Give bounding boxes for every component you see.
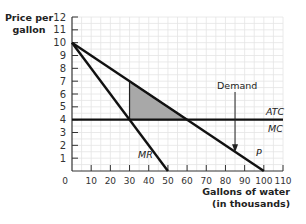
grid: [72, 17, 283, 171]
y-tick-label: 1: [60, 153, 66, 164]
y-tick-label: 7: [60, 76, 66, 87]
x-tick-label: 80: [220, 176, 232, 186]
x-tick-label: 110: [274, 176, 291, 186]
x-tick-label: 20: [105, 176, 117, 186]
y-tick-label: 11: [53, 24, 66, 35]
y-tick-label: 9: [60, 50, 66, 61]
x-tick-label: 100: [255, 176, 272, 186]
y-tick-label: 8: [60, 63, 66, 74]
x-tick-label: 60: [181, 176, 193, 186]
p-label: P: [256, 147, 262, 158]
mr-label: MR: [138, 149, 153, 160]
x-tick-label: 50: [162, 176, 174, 186]
x-tick-label: 70: [201, 176, 213, 186]
tick-labels: 1234567891011120102030405060708090100110: [53, 12, 292, 187]
y-tick-label: 12: [53, 12, 66, 23]
y-tick-label: 6: [60, 89, 66, 100]
x-tick-label: 0: [62, 176, 68, 186]
y-tick-label: 3: [60, 127, 66, 138]
y-tick-label: 4: [60, 114, 66, 125]
x-tick-label: 30: [124, 176, 136, 186]
monopoly-chart: 1234567891011120102030405060708090100110…: [0, 0, 306, 224]
x-tick-label: 10: [85, 176, 97, 186]
atc-label: ATC: [265, 106, 285, 117]
x-tick-label: 40: [143, 176, 155, 186]
mc-label: MC: [268, 123, 283, 134]
y-tick-label: 2: [60, 140, 66, 151]
x-tick-label: 90: [239, 176, 251, 186]
y-tick-label: 10: [53, 37, 66, 48]
y-tick-label: 5: [60, 101, 66, 112]
demand-label: Demand: [217, 80, 257, 91]
